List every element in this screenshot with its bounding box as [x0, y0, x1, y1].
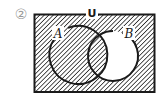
universe-label: U — [88, 7, 97, 20]
venn-diagram: A B U — [0, 0, 163, 99]
venn-diagram-figure: ② A B U — [0, 0, 163, 99]
set-a-label: A — [53, 27, 63, 41]
set-b-label: B — [124, 27, 134, 41]
